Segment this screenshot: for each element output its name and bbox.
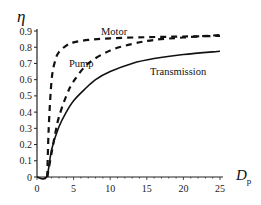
x-tick-label: 15 [142,183,152,194]
motor-label: Motor [101,26,128,37]
y-tick-label: 0.8 [20,42,33,53]
pump-label: Pump [69,58,94,69]
x-axis-symbol: D [235,167,247,183]
y-tick-label: 0.2 [20,139,33,150]
curves [37,35,220,179]
y-tick-label: 0.4 [20,107,33,118]
y-tick-label: 0.6 [20,74,33,85]
transmission-label: Transmission [150,66,207,77]
y-tick-label: 0.7 [20,58,33,69]
axes [37,29,223,177]
x-tick-label: 10 [105,183,115,194]
efficiency-chart: 00.10.20.30.40.50.60.70.80.90510152025 η… [0,0,261,205]
y-tick-label: 0.5 [20,90,33,101]
x-axis-subscript: p [247,176,252,186]
x-tick-label: 0 [35,183,40,194]
x-tick-label: 5 [71,183,76,194]
y-tick-label: 0.9 [20,26,33,37]
y-tick-label: 0.1 [20,155,33,166]
pump-curve [47,35,220,177]
x-tick-label: 20 [178,183,188,194]
y-tick-label: 0 [27,172,32,183]
y-tick-label: 0.3 [20,123,33,134]
x-axis-label: Dp [235,167,252,186]
x-tick-label: 25 [215,183,225,194]
y-axis-label: η [17,7,25,26]
